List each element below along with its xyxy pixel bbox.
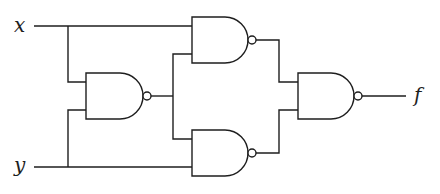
nand-gate-g4 (298, 73, 362, 119)
inverter-bubble-icon (143, 92, 151, 100)
nand-gate-g3 (192, 130, 256, 176)
wire-g1-to-g2 (173, 54, 192, 96)
wire-x-to-g1 (68, 26, 86, 82)
wire-y-to-g1 (68, 110, 86, 167)
inverter-bubble-icon (248, 149, 256, 157)
inverter-bubble-icon (248, 36, 256, 44)
wire-g2-to-g4 (256, 40, 298, 82)
nand-gate-g2 (192, 17, 256, 63)
wire-g3-to-g4 (256, 110, 298, 153)
logic-circuit-diagram: x y f (0, 0, 440, 194)
output-label-f: f (412, 83, 425, 107)
wire-g1-to-g3 (173, 96, 192, 139)
nand-gate-g1 (86, 73, 151, 119)
inverter-bubble-icon (354, 92, 362, 100)
input-label-y: y (13, 153, 26, 177)
input-label-x: x (14, 13, 25, 37)
